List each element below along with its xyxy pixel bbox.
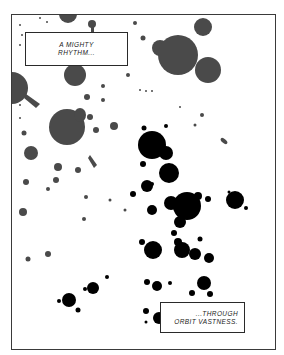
caption-text-line: A MIGHTY bbox=[59, 41, 93, 49]
caption-text-line: ORBIT VASTNESS. bbox=[174, 318, 238, 326]
caption-box-top: A MIGHTY RHYTHM... bbox=[25, 32, 128, 66]
caption-text-line: RHYTHM... bbox=[58, 49, 95, 57]
caption-box-bottom: ...THROUGH ORBIT VASTNESS. bbox=[160, 302, 245, 333]
black-splatters bbox=[57, 124, 248, 324]
caption-text-line: ...THROUGH bbox=[196, 310, 238, 318]
